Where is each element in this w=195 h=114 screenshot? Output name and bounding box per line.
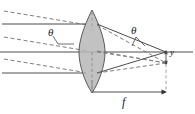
focal-dim-arrowhead (162, 90, 168, 95)
dashed-ray-bottom-incoming (4, 59, 88, 73)
theta-label-image-space: θ (131, 25, 136, 36)
dashed-ray-top-incoming (4, 11, 88, 25)
dashed-ray-bottom-refracted (97, 63, 166, 73)
focal-length-dimension (92, 64, 167, 94)
focal-length-label: f (122, 96, 125, 108)
theta-angle-mark-right (132, 37, 145, 46)
image-height-label: y (170, 48, 174, 57)
solid-ray-lower-refracted (97, 52, 166, 73)
optics-diagram-svg (0, 0, 195, 114)
dashed-ray-middle-incoming (4, 37, 88, 51)
theta-angle-mark-left (53, 36, 74, 44)
incoming-dashed-rays (4, 11, 88, 73)
theta-label-object-space: θ (48, 27, 53, 38)
theta-leader-left (53, 36, 58, 44)
optics-figure: θ θ y f (0, 0, 195, 114)
theta-arm-right (136, 37, 145, 46)
